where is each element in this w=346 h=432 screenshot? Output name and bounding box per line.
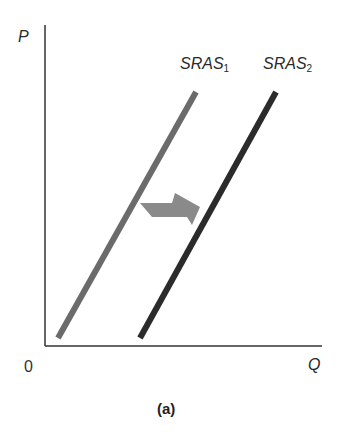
sras2-label: SRAS2 <box>263 55 312 74</box>
y-axis-label: P <box>18 28 29 46</box>
origin-label: 0 <box>24 358 33 376</box>
shift-arrow-icon <box>140 193 200 225</box>
x-axis-label: Q <box>308 356 320 374</box>
figure-caption: (a) <box>157 400 175 417</box>
sras1-label: SRAS1 <box>180 55 229 74</box>
